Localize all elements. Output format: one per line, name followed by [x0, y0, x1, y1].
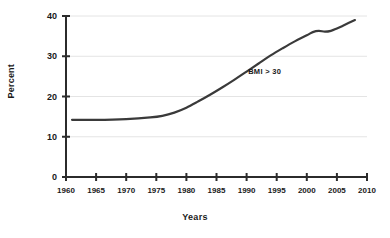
x-tick-label-2010: 2010	[358, 186, 376, 195]
x-tick-label-1970: 1970	[117, 186, 135, 195]
data-series	[72, 20, 355, 120]
x-tick-label-2005: 2005	[328, 186, 346, 195]
y-tick-label-40: 40	[47, 11, 57, 21]
x-tick-label-1975: 1975	[147, 186, 165, 195]
x-tick-label-1965: 1965	[87, 186, 105, 195]
annotation-label-0: BMI > 30	[248, 67, 281, 76]
chart-container: Percent Years 010203040 1960196519701975…	[0, 0, 390, 238]
x-tick-label-1990: 1990	[238, 186, 256, 195]
x-tick-label-2000: 2000	[298, 186, 316, 195]
chart-annotations: BMI > 30	[248, 67, 281, 76]
x-tick-label-1960: 1960	[57, 186, 75, 195]
series-line-0	[72, 20, 355, 120]
plot-area: 010203040 196019651970197519801985199019…	[0, 0, 390, 238]
y-tick-label-20: 20	[47, 92, 57, 102]
y-tick-label-10: 10	[47, 132, 57, 142]
x-tick-label-1985: 1985	[208, 186, 226, 195]
x-tick-label-1995: 1995	[268, 186, 286, 195]
gridlines	[66, 16, 367, 177]
y-tick-label-0: 0	[52, 172, 57, 182]
y-tick-label-30: 30	[47, 51, 57, 61]
x-tick-label-1980: 1980	[178, 186, 196, 195]
